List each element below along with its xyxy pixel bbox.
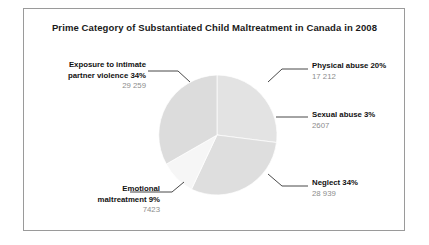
callout-label-line1: Sexual abuse 3% bbox=[312, 110, 424, 121]
callout-sexual-abuse: Sexual abuse 3% 2607 bbox=[312, 110, 424, 131]
callout-value: 28 939 bbox=[312, 189, 424, 200]
callout-label-line2: maltreatment 9% bbox=[52, 195, 160, 206]
callout-label-line1: Emotional bbox=[52, 184, 160, 195]
callout-value: 2607 bbox=[312, 121, 424, 132]
leader-line-physical bbox=[268, 69, 308, 82]
callout-label-line1: Exposure to intimate bbox=[18, 60, 146, 71]
leader-line-neglect bbox=[268, 174, 308, 186]
callout-label-line2: partner violence 34% bbox=[18, 71, 146, 82]
callout-label-line1: Neglect 34% bbox=[312, 178, 424, 189]
callout-value: 29 259 bbox=[18, 81, 146, 92]
callout-exposure-intimate-partner-violence: Exposure to intimate partner violence 34… bbox=[18, 60, 146, 92]
callout-neglect: Neglect 34% 28 939 bbox=[312, 178, 424, 199]
callout-value: 17 212 bbox=[312, 72, 424, 83]
pie-chart-figure: Prime Category of Substantiated Child Ma… bbox=[0, 0, 429, 245]
callout-value: 7423 bbox=[52, 205, 160, 216]
callout-label-line1: Physical abuse 20% bbox=[312, 61, 424, 72]
callout-physical-abuse: Physical abuse 20% 17 212 bbox=[312, 61, 424, 82]
callout-emotional-maltreatment: Emotional maltreatment 9% 7423 bbox=[52, 184, 160, 216]
leader-line-exposure bbox=[148, 71, 190, 82]
